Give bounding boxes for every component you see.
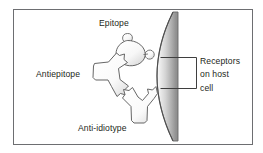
label-anti-idiotype: Anti-idiotype: [78, 123, 127, 134]
label-receptors-on-host-cell: Receptors on host cell: [200, 55, 240, 95]
label-epitope: Epitope: [99, 18, 129, 29]
receptors-label-line-2: on host: [200, 68, 240, 81]
receptors-label-line-3: cell: [200, 82, 240, 95]
receptors-label-line-1: Receptors: [200, 55, 240, 68]
label-antiepitope: Antiepitope: [36, 69, 80, 80]
epitope-lobe-right: [145, 50, 154, 59]
figure-container: Epitope Antiepitope Anti-idiotype Recept…: [0, 0, 263, 153]
epitope-membrane-link: [144, 54, 149, 55]
